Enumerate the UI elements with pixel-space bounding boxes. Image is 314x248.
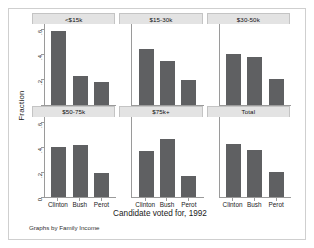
y-axis-scale: 0.2.4.6: [29, 24, 44, 106]
y-tick-label: .2: [37, 80, 43, 85]
panel-30-50k: $30-50k: [204, 13, 291, 106]
panel-15k: <$15k0.2.4.6: [29, 13, 116, 106]
bar-clinton: [51, 147, 66, 197]
bar-group: [45, 24, 116, 105]
bar-group: [132, 24, 203, 105]
panel-body: [116, 24, 203, 106]
y-tick-label: .6: [37, 30, 43, 35]
panel-header-label: $75k+: [119, 106, 202, 117]
panel-header-label: $50-75k: [32, 106, 115, 117]
y-axis-scale: 0.2.4.6: [29, 117, 44, 199]
bar-group: [220, 117, 291, 198]
x-axis-title: Candidate voted for, 1992: [29, 209, 291, 218]
bar-clinton: [226, 54, 241, 105]
bar-bush: [73, 76, 88, 104]
bar-group: [132, 117, 203, 198]
y-axis-title-label: Fraction: [17, 90, 26, 121]
chart-footnote: Graphs by Family Income: [29, 224, 100, 231]
bar-clinton: [226, 144, 241, 197]
y-tick-label: .2: [37, 173, 43, 178]
bar-perot: [181, 176, 196, 197]
bar-bush: [73, 145, 88, 197]
panel-header-label: $30-50k: [207, 13, 290, 24]
panel-body: 0.2.4.6: [29, 24, 116, 106]
chart-screenshot: Fraction <$15k0.2.4.6$15-30k$30-50k$50-7…: [0, 0, 314, 248]
bar-bush: [247, 57, 262, 105]
bar-perot: [94, 82, 109, 104]
bar-group: [220, 24, 291, 105]
y-tick-label: 0: [37, 198, 43, 201]
panel-body: ClintonBushPerot: [204, 117, 291, 199]
bar-bush: [247, 150, 262, 197]
panel-grid: <$15k0.2.4.6$15-30k$30-50k$50-75k0.2.4.6…: [29, 13, 291, 198]
bar-clinton: [139, 151, 154, 197]
y-tick-label: .4: [37, 55, 43, 60]
plot-area: [219, 24, 291, 106]
y-axis-title: Fraction: [14, 62, 28, 148]
bar-bush: [160, 139, 175, 197]
panel-body: [204, 24, 291, 106]
bar-group: [45, 117, 116, 198]
plot-area: [131, 24, 203, 106]
panel-total: TotalClintonBushPerot: [204, 106, 291, 199]
y-tick-label: .4: [37, 148, 43, 153]
panel-header-label: Total: [207, 106, 290, 117]
panel-50-75k: $50-75k0.2.4.6ClintonBushPerot: [29, 106, 116, 199]
panel-body: 0.2.4.6ClintonBushPerot: [29, 117, 116, 199]
bar-perot: [181, 80, 196, 105]
panel-body: ClintonBushPerot: [116, 117, 203, 199]
panel-header-label: <$15k: [32, 13, 115, 24]
bar-clinton: [139, 49, 154, 105]
panel-75k: $75k+ClintonBushPerot: [116, 106, 203, 199]
plot-area: [131, 117, 203, 199]
bar-bush: [160, 61, 175, 104]
bar-clinton: [51, 31, 66, 104]
panel-header-label: $15-30k: [119, 13, 202, 24]
bar-perot: [269, 172, 284, 197]
bar-perot: [269, 79, 284, 105]
y-tick-label: .6: [37, 123, 43, 128]
panel-15-30k: $15-30k: [116, 13, 203, 106]
plot-area: [219, 117, 291, 199]
plot-area: [44, 24, 116, 106]
plot-area: [44, 117, 116, 199]
bar-perot: [94, 173, 109, 197]
